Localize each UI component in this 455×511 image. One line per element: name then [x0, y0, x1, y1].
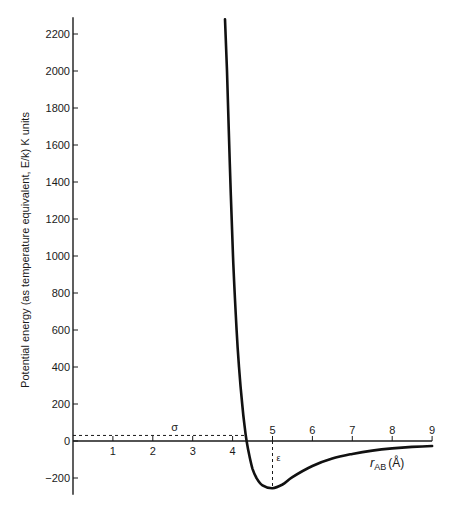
y-tick-label: 1000: [46, 250, 70, 262]
y-tick-label: 400: [52, 361, 70, 373]
y-tick-label: 800: [52, 287, 70, 299]
x-axis-title: rAB(Å): [370, 455, 404, 472]
y-tick-label: −200: [45, 472, 70, 484]
x-tick-label: 9: [429, 424, 435, 436]
x-axis-title-sub: AB: [374, 462, 386, 472]
x-axis-title-unit: (Å): [388, 455, 404, 470]
y-tick-label: 0: [64, 435, 70, 447]
x-tick-label: 8: [389, 424, 395, 436]
y-tick-label: 2200: [46, 28, 70, 40]
x-tick-label: 5: [269, 424, 275, 436]
epsilon-label: ε: [277, 453, 281, 463]
y-tick-label: 600: [52, 324, 70, 336]
x-tick-label: 4: [230, 445, 236, 457]
y-tick-label: 1600: [46, 139, 70, 151]
x-tick-label: 7: [349, 424, 355, 436]
x-tick-label: 1: [110, 445, 116, 457]
x-tick-label: 3: [190, 445, 196, 457]
sigma-label: σ: [171, 421, 178, 433]
x-tick-label: 2: [150, 445, 156, 457]
y-tick-label: 1200: [46, 213, 70, 225]
y-tick-label: 200: [52, 398, 70, 410]
y-axis-title: Potential energy (as temperature equival…: [19, 112, 31, 388]
y-tick-label: 2000: [46, 65, 70, 77]
potential-curve: [225, 19, 432, 488]
x-tick-label: 6: [309, 424, 315, 436]
y-tick-label: 1400: [46, 176, 70, 188]
y-tick-label: 1800: [46, 102, 70, 114]
lennard-jones-chart: −200020040060080010001200140016001800200…: [0, 0, 455, 511]
